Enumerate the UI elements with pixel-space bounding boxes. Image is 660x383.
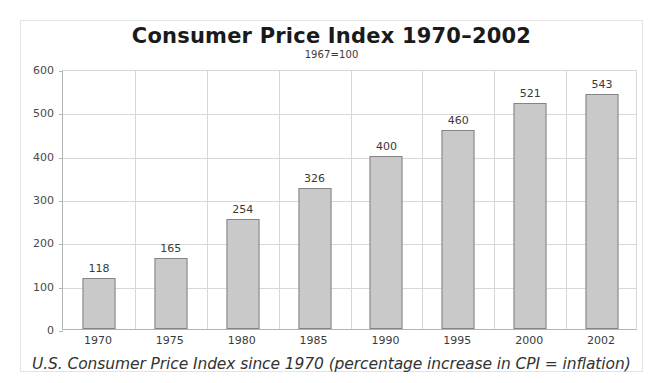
chart-figure: Consumer Price Index 1970–2002 1967=100 … (0, 0, 660, 383)
x-tick-label: 1980 (206, 334, 278, 347)
bar-cell: 165 (135, 71, 207, 329)
x-tick-label: 2000 (493, 334, 565, 347)
bar[interactable] (442, 130, 475, 329)
bar-value-label: 326 (304, 173, 325, 184)
x-tick-label: 2002 (565, 334, 637, 347)
chart-title: Consumer Price Index 1970–2002 (20, 24, 643, 48)
bar[interactable] (298, 188, 331, 329)
bar[interactable] (514, 103, 547, 329)
bar[interactable] (154, 258, 187, 330)
bar[interactable] (226, 219, 259, 329)
bar-cell: 400 (351, 71, 423, 329)
x-tick-label: 1970 (62, 334, 134, 347)
plot-area: 118165254326400460521543 (62, 70, 637, 330)
bar-value-label: 521 (520, 88, 541, 99)
x-tick-label: 1975 (134, 334, 206, 347)
title-block: Consumer Price Index 1970–2002 1967=100 (20, 24, 643, 61)
bar[interactable] (82, 278, 115, 329)
bar-cell: 543 (566, 71, 638, 329)
bar-cell: 254 (207, 71, 279, 329)
chart-subtitle: 1967=100 (20, 49, 643, 61)
bar-value-label: 254 (232, 204, 253, 215)
x-tick-label: 1985 (278, 334, 350, 347)
bar-value-label: 460 (448, 115, 469, 126)
x-tick-label: 1995 (421, 334, 493, 347)
bar-cell: 118 (63, 71, 135, 329)
bar-value-label: 543 (592, 79, 613, 90)
chart-caption: U.S. Consumer Price Index since 1970 (pe… (32, 352, 640, 376)
y-tick-mark (59, 331, 63, 332)
bar-cell: 521 (494, 71, 566, 329)
bar-value-label: 118 (88, 263, 109, 274)
bar-value-label: 400 (376, 141, 397, 152)
x-tick-label: 1990 (350, 334, 422, 347)
bar-value-label: 165 (160, 243, 181, 254)
bar-cell: 460 (422, 71, 494, 329)
bar-cell: 326 (279, 71, 351, 329)
bar[interactable] (586, 94, 619, 329)
bar[interactable] (370, 156, 403, 329)
x-axis-tick-labels: 19701975198019851990199520002002 (62, 334, 637, 350)
